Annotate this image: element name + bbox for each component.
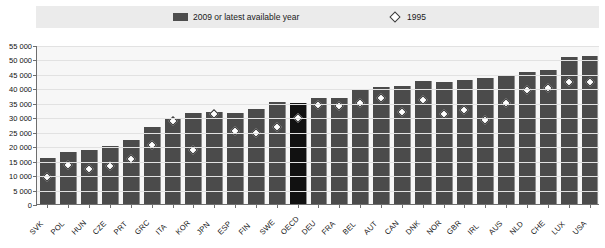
- x-axis-label-nld: NLD: [508, 219, 525, 236]
- x-axis-label-pol: POL: [49, 219, 66, 236]
- bar-group[interactable]: [350, 46, 371, 204]
- y-axis-tick-label: 20 000: [9, 143, 32, 152]
- filled-square-swatch-icon: [173, 13, 188, 21]
- x-axis-label-fin: FIN: [237, 221, 252, 236]
- x-axis-label-kor: KOR: [174, 218, 192, 236]
- x-axis-label-grc: GRC: [132, 218, 151, 237]
- bar-group[interactable]: [141, 46, 162, 204]
- y-axis-tick: [33, 147, 37, 148]
- bar-group[interactable]: [287, 46, 308, 204]
- plot-area: [36, 46, 599, 205]
- bar-group[interactable]: [120, 46, 141, 204]
- bar-group[interactable]: [266, 46, 287, 204]
- gridline: [37, 147, 599, 148]
- bar-group[interactable]: [204, 46, 225, 204]
- y-axis-tick: [33, 75, 37, 76]
- bar-group[interactable]: [246, 46, 267, 204]
- x-axis-label-lux: LUX: [550, 220, 567, 237]
- bar[interactable]: [311, 98, 328, 204]
- bar-group[interactable]: [496, 46, 517, 204]
- bar[interactable]: [331, 98, 348, 204]
- y-axis-tick-label: 50 000: [9, 56, 32, 65]
- y-axis-tick: [33, 176, 37, 177]
- bar-group[interactable]: [475, 46, 496, 204]
- y-axis-tick-label: 25 000: [9, 128, 32, 137]
- bar-group[interactable]: [558, 46, 579, 204]
- bar-group[interactable]: [308, 46, 329, 204]
- x-axis-label-cze: CZE: [91, 219, 108, 236]
- x-axis-label-fra: FRA: [320, 219, 337, 236]
- y-axis-tick-label: 45 000: [9, 70, 32, 79]
- x-axis-label-irl: IRL: [466, 222, 481, 237]
- y-axis-tick: [33, 205, 37, 206]
- y-axis-tick: [33, 104, 37, 105]
- y-axis-tick: [33, 133, 37, 134]
- x-axis-label-oecd: OECD: [278, 214, 300, 236]
- bar[interactable]: [144, 127, 161, 204]
- bar-group[interactable]: [433, 46, 454, 204]
- x-axis-label-aus: AUS: [487, 219, 505, 237]
- x-axis-label-svk: SVK: [28, 219, 45, 236]
- x-axis-label-che: CHE: [529, 219, 547, 237]
- bar-group[interactable]: [79, 46, 100, 204]
- bar-group[interactable]: [517, 46, 538, 204]
- legend-label-1995: 1995: [407, 13, 426, 22]
- y-axis-tick-label: 15 000: [9, 157, 32, 166]
- chart-legend: 2009 or latest available year 1995: [36, 6, 599, 28]
- bar-group[interactable]: [100, 46, 121, 204]
- gridline: [37, 75, 599, 76]
- y-axis-tick-label: 10 000: [9, 172, 32, 181]
- bar[interactable]: [457, 80, 474, 204]
- y-axis-tick: [33, 118, 37, 119]
- bar[interactable]: [40, 158, 57, 204]
- bar-group[interactable]: [371, 46, 392, 204]
- y-axis-labels: 05 00010 00015 00020 00025 00030 00035 0…: [0, 46, 32, 205]
- y-axis-tick-label: 5 000: [13, 186, 32, 195]
- bar-group[interactable]: [183, 46, 204, 204]
- x-axis-label-jpn: JPN: [195, 220, 212, 237]
- bar-group[interactable]: [329, 46, 350, 204]
- y-axis-tick: [33, 46, 37, 47]
- bar-group[interactable]: [454, 46, 475, 204]
- legend-label-2009: 2009 or latest available year: [193, 13, 299, 22]
- x-axis-label-aut: AUT: [362, 219, 379, 236]
- gridline: [37, 104, 599, 105]
- bars-container: [37, 46, 599, 204]
- bar-group[interactable]: [391, 46, 412, 204]
- x-axis-labels: SVKPOLHUNCZEPRTGRCITAKORJPNESPFINSWEOECD…: [36, 207, 599, 248]
- y-axis-tick: [33, 191, 37, 192]
- bar-group[interactable]: [37, 46, 58, 204]
- y-axis-tick-label: 40 000: [9, 85, 32, 94]
- bar[interactable]: [60, 152, 77, 204]
- gridline: [37, 162, 599, 163]
- y-axis-tick: [33, 89, 37, 90]
- x-axis-label-esp: ESP: [216, 219, 233, 236]
- gridline: [37, 133, 599, 134]
- bar-group[interactable]: [537, 46, 558, 204]
- x-axis-label-hun: HUN: [70, 218, 88, 236]
- bar[interactable]: [436, 82, 453, 204]
- x-axis-label-usa: USA: [570, 219, 588, 237]
- y-axis-tick-label: 30 000: [9, 114, 32, 123]
- chart-figure: 2009 or latest available year 1995 05 00…: [0, 0, 605, 248]
- bar[interactable]: [498, 76, 515, 204]
- x-axis-label-swe: SWE: [258, 218, 277, 237]
- bar-group[interactable]: [58, 46, 79, 204]
- gridline: [37, 89, 599, 90]
- x-axis-label-can: CAN: [383, 219, 401, 237]
- y-axis-tick-label: 35 000: [9, 99, 32, 108]
- gridline: [37, 60, 599, 61]
- bar[interactable]: [123, 140, 140, 204]
- y-axis-tick-label: 55 000: [9, 42, 32, 51]
- bar-group[interactable]: [579, 46, 600, 204]
- y-axis-tick: [33, 162, 37, 163]
- legend-item-1995: 1995: [389, 6, 426, 28]
- bar[interactable]: [477, 78, 494, 204]
- x-axis-label-ita: ITA: [153, 222, 168, 237]
- bar-group[interactable]: [225, 46, 246, 204]
- x-axis-label-dnk: DNK: [404, 219, 422, 237]
- bar-group[interactable]: [412, 46, 433, 204]
- bar[interactable]: [81, 150, 98, 204]
- gridline: [37, 46, 599, 47]
- bar-group[interactable]: [162, 46, 183, 204]
